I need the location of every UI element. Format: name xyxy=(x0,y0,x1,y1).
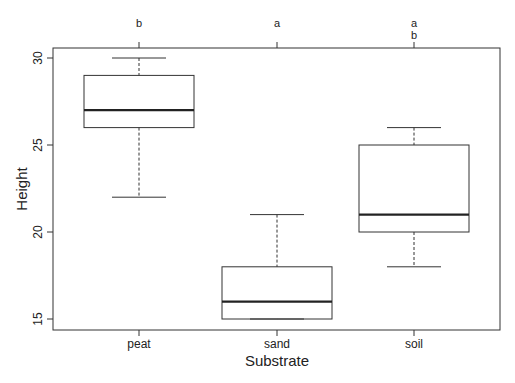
x-axis-label: Substrate xyxy=(245,352,309,369)
box-soil xyxy=(359,128,469,267)
significance-letters: b a a b xyxy=(136,17,418,48)
y-tick-label: 15 xyxy=(31,312,45,326)
letter-sand: a xyxy=(274,17,281,29)
x-tick-label: soil xyxy=(405,337,423,351)
y-axis: 15 20 25 30 Height xyxy=(13,51,53,326)
letter-soil-1: a xyxy=(411,17,418,29)
y-tick-label: 25 xyxy=(31,138,45,152)
y-axis-label: Height xyxy=(13,166,30,210)
letter-soil-2: b xyxy=(411,29,417,41)
box-peat xyxy=(84,58,194,197)
x-axis: peat sand soil Substrate xyxy=(127,330,423,369)
y-tick-label: 20 xyxy=(31,225,45,239)
box-sand xyxy=(222,215,332,319)
plot-frame xyxy=(53,48,500,330)
x-tick-label: peat xyxy=(127,337,151,351)
y-tick-label: 30 xyxy=(31,51,45,65)
x-tick-label: sand xyxy=(264,337,290,351)
letter-peat: b xyxy=(136,17,142,29)
boxplot-chart: 15 20 25 30 Height peat sand soil Substr… xyxy=(0,0,515,383)
boxes xyxy=(84,58,469,319)
